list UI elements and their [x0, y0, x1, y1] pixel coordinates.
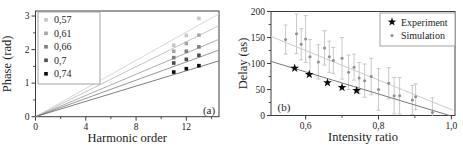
y-axis-title: Phase (rad)	[0, 36, 14, 93]
data-point	[185, 34, 189, 38]
y-tick-label: 0	[260, 111, 265, 121]
legend-marker	[44, 59, 48, 63]
x-tick-label: 1,0	[445, 121, 457, 131]
data-point	[172, 61, 176, 65]
simulation-point	[328, 55, 331, 58]
figure-canvas: 048120123Harmonic orderPhase (rad)(a)0,5…	[0, 0, 463, 152]
simulation-point	[363, 79, 366, 82]
legend-marker	[44, 72, 48, 76]
legend-marker	[44, 32, 48, 36]
y-axis-title: Delay (as)	[236, 38, 250, 90]
data-point	[197, 33, 201, 37]
data-point	[185, 42, 189, 46]
simulation-point	[317, 60, 320, 63]
experiment-point	[305, 70, 314, 78]
y-tick-label: 150	[251, 33, 266, 43]
data-point	[197, 17, 201, 21]
panel-a-legend: 0,570,610,660,70,74	[38, 12, 100, 84]
simulation-point	[300, 43, 303, 46]
experiment-point	[352, 86, 361, 94]
panel-label-b: (b)	[278, 101, 291, 114]
y-tick-label: 200	[251, 7, 266, 17]
simulation-point	[387, 82, 390, 85]
simulation-point	[284, 38, 287, 41]
simulation-point	[353, 66, 356, 69]
data-point	[185, 58, 189, 62]
legend-entry-label: 0,7	[54, 55, 67, 66]
x-tick-label: 0	[33, 122, 38, 132]
data-point	[172, 43, 176, 47]
experiment-fit-line	[271, 61, 450, 115]
legend-dot-marker	[391, 34, 394, 37]
x-tick-label: 8	[134, 122, 139, 132]
data-point	[172, 56, 176, 60]
simulation-point	[358, 77, 361, 80]
panel-a-axes: 048120123Harmonic orderPhase (rad)(a)	[0, 11, 219, 145]
simulation-point	[370, 75, 373, 78]
simulation-point	[304, 38, 307, 41]
y-tick-label: 0	[25, 112, 30, 122]
data-point	[197, 45, 201, 49]
simulation-point	[347, 71, 350, 74]
y-tick-label: 1	[25, 78, 30, 88]
simulation-point	[398, 94, 401, 97]
data-point	[185, 67, 189, 71]
simulation-point	[323, 46, 326, 49]
two-panel-figure: 048120123Harmonic orderPhase (rad)(a)0,5…	[0, 0, 463, 152]
panel-label-a: (a)	[203, 104, 216, 117]
simulation-fit-line	[271, 36, 453, 110]
data-point	[185, 49, 189, 53]
simulation-point	[414, 95, 417, 98]
legend-entry-label: 0,61	[54, 28, 72, 39]
simulation-point	[377, 88, 380, 91]
experiment-point	[290, 64, 299, 72]
x-tick-label: 12	[182, 122, 192, 132]
data-point	[172, 49, 176, 53]
simulation-point	[341, 57, 344, 60]
panel-b-legend: ExperimentSimulation	[380, 13, 455, 46]
x-axis-title: Intensity ratio	[328, 130, 398, 144]
simulation-point	[295, 32, 298, 35]
legend-entry-label: 0,57	[54, 14, 72, 25]
legend-entry-label: Experiment	[401, 17, 448, 28]
data-point	[197, 64, 201, 68]
legend-entry-label: 0,74	[54, 68, 72, 79]
legend-marker	[44, 45, 48, 49]
simulation-point	[431, 111, 434, 114]
data-point	[172, 70, 176, 74]
legend-marker	[44, 18, 48, 22]
legend-entry-label: Simulation	[401, 30, 445, 41]
simulation-point	[308, 55, 311, 58]
y-tick-label: 50	[256, 85, 266, 95]
x-tick-label: 0,8	[373, 121, 385, 131]
legend-entry-label: 0,66	[54, 41, 72, 52]
y-tick-label: 2	[25, 45, 30, 55]
x-tick-label: 4	[83, 122, 88, 132]
data-point	[197, 53, 201, 57]
simulation-point	[393, 94, 396, 97]
simulation-point	[411, 98, 414, 101]
y-tick-label: 100	[251, 59, 266, 69]
y-tick-label: 3	[25, 11, 30, 21]
x-tick-label: 0,6	[300, 121, 312, 131]
simulation-point	[332, 59, 335, 62]
x-axis-title: Harmonic order	[88, 131, 168, 145]
